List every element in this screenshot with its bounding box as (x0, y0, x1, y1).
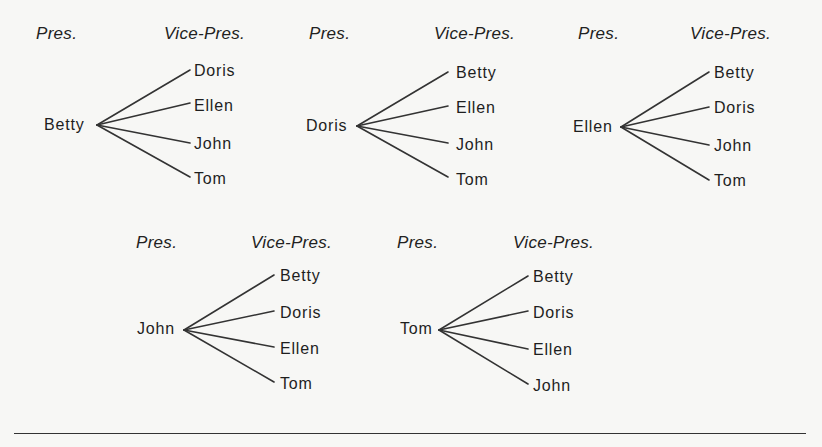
vice-pres-node: John (533, 377, 571, 395)
vice-pres-node: Doris (533, 304, 574, 322)
pres-node: Tom (400, 320, 433, 338)
vice-pres-node: Ellen (533, 341, 573, 359)
vice-pres-node: Betty (533, 268, 573, 286)
horizontal-rule (14, 433, 806, 434)
tree-edges (0, 0, 822, 447)
tree-diagram: Pres. Vice-Pres. Betty Doris Ellen John … (0, 0, 822, 447)
